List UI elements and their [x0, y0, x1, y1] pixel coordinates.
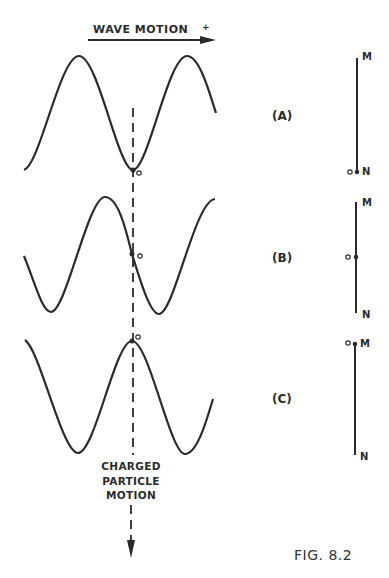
wave-motion-mark: + [202, 22, 210, 32]
label-m-b: M [362, 197, 372, 208]
label-m-a: M [362, 51, 372, 62]
panel-label-c: (C) [272, 392, 292, 406]
label-m-c: M [360, 338, 370, 349]
wave-a [24, 56, 216, 170]
wave-motion-arrow [88, 36, 216, 44]
wave-c [25, 340, 213, 454]
wave-diagram [0, 0, 389, 578]
panel-label-a: (A) [272, 109, 292, 123]
panel-label-b: (B) [272, 251, 292, 265]
particle-motion-arrowhead [127, 540, 135, 558]
figure-caption: FIG. 8.2 [294, 547, 352, 563]
label-n-c: N [360, 451, 368, 462]
label-n-a: N [362, 166, 370, 177]
label-n-b: N [362, 309, 370, 320]
wave-motion-label: WAVE MOTION [93, 23, 188, 36]
particle-dot-c [130, 339, 135, 344]
particle-motion-label: CHARGED PARTICLE MOTION [95, 459, 167, 503]
particle-dot-a [131, 168, 136, 173]
particle-dot-b [130, 252, 135, 257]
wave-b [24, 197, 215, 314]
